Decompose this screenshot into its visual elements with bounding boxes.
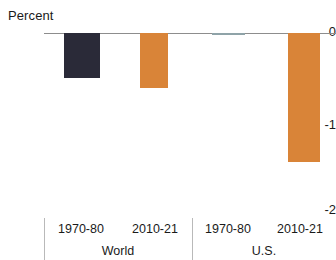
x-label-us-2010-21: 2010-21 bbox=[264, 222, 336, 236]
bar-chart-screenshot: Percent 0 -1 -2 1970-80 2010-21 1970-80 … bbox=[0, 0, 336, 260]
group-label-us: U.S. bbox=[192, 244, 336, 258]
x-label-us-1970-80: 1970-80 bbox=[192, 222, 264, 236]
x-label-world-1970-80: 1970-80 bbox=[44, 222, 118, 236]
plot-area bbox=[44, 0, 336, 218]
bar-us-1970-80 bbox=[212, 33, 245, 35]
x-label-world-2010-21: 2010-21 bbox=[118, 222, 192, 236]
bar-world-2010-21 bbox=[140, 33, 168, 88]
bar-world-1970-80 bbox=[64, 33, 100, 78]
bar-us-2010-21 bbox=[288, 33, 320, 162]
group-label-world: World bbox=[44, 244, 192, 258]
x-axis-label-band: 1970-80 2010-21 1970-80 2010-21 World U.… bbox=[0, 218, 336, 260]
